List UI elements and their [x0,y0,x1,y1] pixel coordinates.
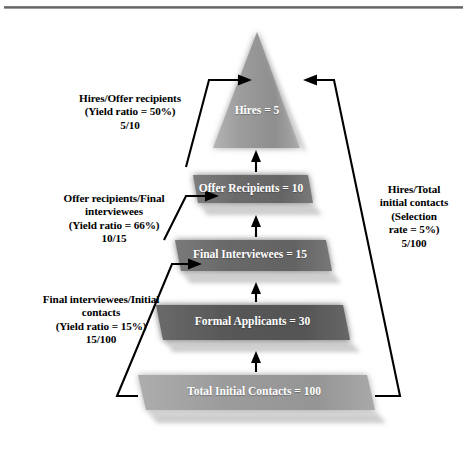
callout-line: Hires/Total [366,183,462,196]
callout-line: (Yield ratio = 66%) [30,219,198,232]
tier-label-final-interviewees: Final Interviewees = 15 [170,248,330,260]
tier-label-hires: Hires = 5 [213,104,301,116]
tier-label-total-initial-contacts: Total Initial Contacts = 100 [140,385,368,397]
callout-line: 5/100 [366,237,462,250]
callout-line: rate = 5%) [366,223,462,236]
callout-line: interviewees [30,205,198,218]
callout-line: 10/15 [30,232,198,245]
callout-final-interviewees-over-initial-contacts: Final interviewees/Initial contacts (Yie… [12,293,190,347]
callout-offer-recipients-over-final-interviewees: Offer recipients/Final interviewees (Yie… [30,192,198,246]
callout-line: initial contacts [366,196,462,209]
callout-hires-over-total-initial-contacts: Hires/Total initial contacts (Selection … [366,183,462,250]
tier-total-initial-contacts [138,375,386,423]
tier-final-interviewees [175,240,341,283]
tier-label-offer-recipients: Offer Recipients = 10 [186,182,316,194]
callout-line: Offer recipients/Final [30,192,198,205]
callout-line: 5/10 [46,119,214,132]
callout-line: 15/100 [12,333,190,346]
callout-line: (Yield ratio = 15%) [12,320,190,333]
callout-line: Final interviewees/Initial [12,293,190,306]
callout-hires-over-offer-recipients: Hires/Offer recipients (Yield ratio = 50… [46,92,214,132]
callout-line: Hires/Offer recipients [46,92,214,105]
arrowhead-hires-total [303,75,317,86]
callout-line: (Selection [366,210,462,223]
tier-hires-apex [213,32,307,152]
callout-line: (Yield ratio = 50%) [46,105,214,118]
callout-line: contacts [12,306,190,319]
figure-canvas: Hires = 5 Offer Recipients = 10 Final In… [0,0,467,450]
